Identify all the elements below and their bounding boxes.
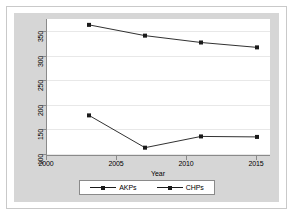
x-tick-label: 2010 (179, 160, 194, 167)
legend-marker-icon (90, 184, 116, 191)
data-point-marker (143, 146, 147, 150)
data-point-marker (255, 135, 259, 139)
x-tick-label: 2005 (109, 160, 124, 167)
plot-inner (47, 19, 270, 155)
y-tick-label: 200 (37, 105, 44, 116)
y-tick-label: 350 (37, 31, 44, 42)
legend-entry-akps[interactable]: AKPs (90, 184, 136, 191)
data-point-marker (255, 45, 259, 49)
series-line-chps (89, 115, 257, 147)
y-tick-label: 250 (37, 80, 44, 91)
data-point-marker (199, 40, 203, 44)
y-tick-label: 300 (37, 56, 44, 67)
chart-legend: AKPs CHPs (79, 180, 215, 195)
x-axis-title: Year (46, 170, 270, 177)
series-layer (47, 19, 271, 156)
data-point-marker (87, 23, 91, 27)
data-point-marker (199, 134, 203, 138)
legend-entry-chps[interactable]: CHPs (157, 184, 204, 191)
data-point-marker (143, 34, 147, 38)
chart-figure: 100150200250300350 2000200520102015 Year… (0, 0, 293, 215)
y-tick-label: 150 (37, 129, 44, 140)
legend-label-akps: AKPs (119, 184, 136, 191)
x-tick-label: 2000 (39, 160, 54, 167)
series-line-akps (89, 25, 257, 48)
data-point-marker (87, 113, 91, 117)
legend-marker-icon (157, 184, 183, 191)
plot-area (46, 19, 270, 156)
legend-label-chps: CHPs (186, 184, 204, 191)
x-tick-label: 2015 (249, 160, 264, 167)
